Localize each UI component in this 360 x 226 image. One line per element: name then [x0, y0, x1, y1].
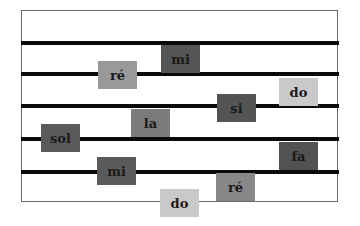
- note-label: ré: [110, 68, 125, 83]
- note-label: do: [171, 196, 189, 211]
- note-box-do-10: do: [160, 189, 199, 217]
- note-box-re-9: ré: [216, 173, 255, 201]
- note-box-mi-1: mi: [161, 45, 200, 73]
- note-label: mi: [171, 52, 190, 67]
- note-box-sol-6: sol: [41, 124, 80, 152]
- note-box-si-4: si: [217, 94, 256, 122]
- staff-line-5: [21, 170, 339, 174]
- note-box-do-3: do: [279, 78, 318, 106]
- note-box-re-2: ré: [98, 61, 137, 89]
- note-label: si: [230, 101, 242, 116]
- note-label: ré: [228, 180, 243, 195]
- note-label: mi: [107, 164, 126, 179]
- note-label: fa: [291, 149, 305, 164]
- note-label: sol: [50, 131, 71, 146]
- note-label: la: [144, 116, 157, 131]
- note-box-la-5: la: [131, 109, 170, 137]
- note-label: do: [290, 85, 308, 100]
- note-box-fa-7: fa: [279, 142, 318, 170]
- note-box-mi-8: mi: [97, 157, 136, 185]
